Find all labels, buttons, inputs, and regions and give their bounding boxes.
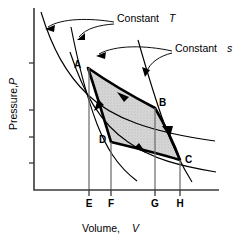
constant-s-leaders [96, 47, 172, 77]
state-label-c: C [185, 154, 192, 165]
y-axis-title-var: P [7, 78, 19, 85]
state-label-b: B [159, 97, 166, 108]
constant-t-leaders [45, 19, 114, 40]
constant-t-label-text: Constant [117, 12, 159, 24]
x-axis-title-var: V [132, 222, 140, 234]
constant-s-label-text: Constant [175, 42, 217, 54]
constant-s-label-var: s [227, 42, 233, 54]
y-axis-title: Pressure, P [7, 78, 19, 130]
constant-t-leader-left [48, 19, 114, 27]
constant-t-label: Constant T [117, 12, 177, 24]
x-tick-label-g: G [151, 198, 159, 209]
x-tick-label-e: E [86, 198, 93, 209]
x-axis-title-text: Volume, [82, 222, 120, 234]
constant-s-label: Constant s [175, 42, 233, 54]
x-tick-label-f: F [108, 198, 114, 209]
constant-t-label-var: T [169, 12, 177, 24]
state-label-d: D [99, 134, 106, 145]
constant-s-leader-left [99, 47, 172, 54]
x-tick-label-h: H [176, 198, 183, 209]
constant-t-arrow-right [77, 33, 85, 40]
state-label-a: A [74, 59, 81, 70]
pv-diagram-svg: E F G H A B C D Constant T Constant [0, 0, 242, 240]
x-axis-title: Volume, V [82, 222, 140, 234]
pv-diagram-figure: E F G H A B C D Constant T Constant [0, 0, 242, 240]
y-axis-title-text: Pressure, [7, 85, 19, 130]
